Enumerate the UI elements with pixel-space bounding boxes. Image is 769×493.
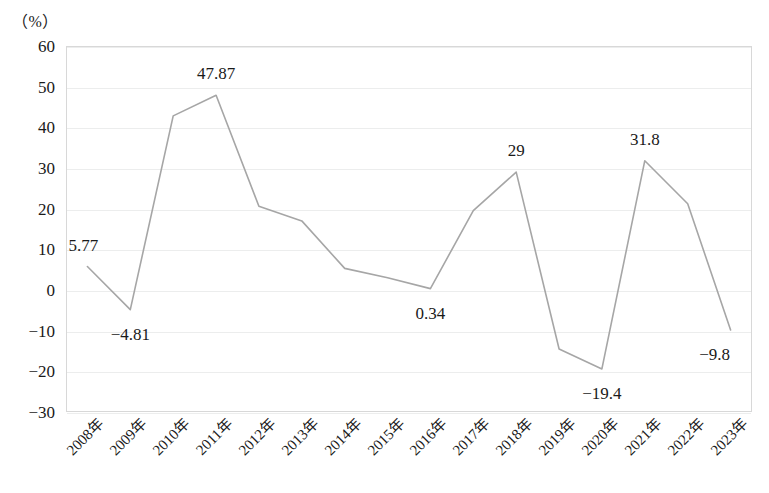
x-axis-tick-label: 2014年 bbox=[322, 416, 364, 458]
data-point-label: 31.8 bbox=[630, 130, 660, 147]
x-axis-tick-label: 2022年 bbox=[665, 416, 707, 458]
y-axis-tick-label: 50 bbox=[0, 78, 55, 95]
chart-page: （%） 6050403020100−10−20−30 5.77−4.8147.8… bbox=[0, 0, 769, 493]
y-axis-tick-label: 0 bbox=[0, 282, 55, 299]
x-axis-tick-label: 2021年 bbox=[622, 416, 664, 458]
x-axis-tick-label: 2013年 bbox=[279, 416, 321, 458]
x-axis-tick-label: 2010年 bbox=[150, 416, 192, 458]
gridline bbox=[67, 88, 751, 89]
x-axis-tick-label: 2012年 bbox=[236, 416, 278, 458]
gridline bbox=[67, 332, 751, 333]
x-axis-tick-label: 2023年 bbox=[708, 416, 750, 458]
x-axis-tick-label: 2020年 bbox=[579, 416, 621, 458]
y-axis-tick-label: 10 bbox=[0, 241, 55, 258]
data-point-label: 29 bbox=[508, 142, 525, 159]
y-axis-unit-caption: （%） bbox=[12, 8, 59, 32]
plot-area bbox=[66, 46, 752, 412]
x-axis-tick-label: 2009年 bbox=[107, 416, 149, 458]
x-axis-tick-label: 2008年 bbox=[65, 416, 107, 458]
data-point-label: −19.4 bbox=[582, 384, 621, 401]
y-axis-tick-label: −10 bbox=[0, 322, 55, 339]
data-point-label: −9.8 bbox=[699, 345, 730, 362]
gridline bbox=[67, 250, 751, 251]
y-axis-tick-label: 20 bbox=[0, 200, 55, 217]
gridline bbox=[67, 413, 751, 414]
x-axis-tick-label: 2011年 bbox=[194, 416, 236, 458]
y-axis-tick-label: −20 bbox=[0, 363, 55, 380]
y-axis-tick-label: 40 bbox=[0, 119, 55, 136]
x-axis-tick-label: 2016年 bbox=[408, 416, 450, 458]
gridline bbox=[67, 291, 751, 292]
y-axis-tick-label: 60 bbox=[0, 38, 55, 55]
y-axis-tick-label: 30 bbox=[0, 160, 55, 177]
x-axis-tick-label: 2018年 bbox=[493, 416, 535, 458]
data-point-label: 0.34 bbox=[416, 304, 446, 321]
gridline bbox=[67, 210, 751, 211]
data-point-label: −4.81 bbox=[111, 325, 150, 342]
data-point-label: 5.77 bbox=[69, 236, 99, 253]
gridline bbox=[67, 169, 751, 170]
x-axis-tick-label: 2017年 bbox=[450, 416, 492, 458]
y-axis-tick-label: −30 bbox=[0, 404, 55, 421]
x-axis-tick-label: 2015年 bbox=[365, 416, 407, 458]
x-axis-tick-label: 2019年 bbox=[536, 416, 578, 458]
gridline bbox=[67, 47, 751, 48]
gridline bbox=[67, 372, 751, 373]
data-point-label: 47.87 bbox=[197, 65, 235, 82]
